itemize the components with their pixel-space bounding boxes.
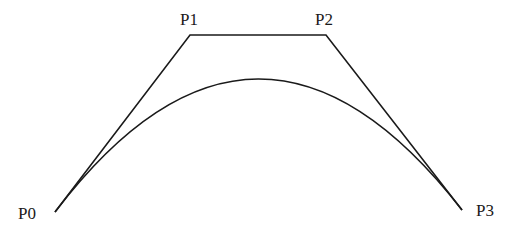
label-p2: P2 xyxy=(315,10,333,29)
label-p1: P1 xyxy=(180,10,198,29)
bezier-curve xyxy=(55,79,462,212)
label-p3: P3 xyxy=(476,201,494,220)
bezier-diagram: P0 P1 P2 P3 xyxy=(0,0,524,229)
control-polygon xyxy=(55,35,462,212)
label-p0: P0 xyxy=(18,204,36,223)
